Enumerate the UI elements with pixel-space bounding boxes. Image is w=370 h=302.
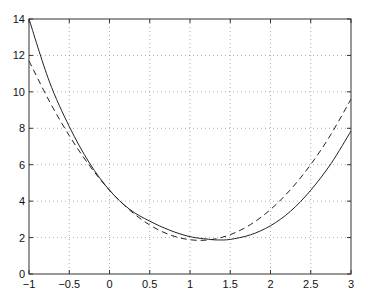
y-tick-label: 0 — [19, 268, 25, 280]
x-tick-label: 1.5 — [223, 278, 238, 290]
y-tick-label: 6 — [19, 159, 25, 171]
axis-ticks: −1−0.500.511.522.5302468101214 — [13, 13, 354, 290]
x-tick-label: 2.5 — [303, 278, 318, 290]
x-tick-label: 0.5 — [142, 278, 157, 290]
y-tick-label: 12 — [13, 49, 25, 61]
x-tick-label: −0.5 — [58, 278, 80, 290]
x-tick-label: 0 — [106, 278, 112, 290]
y-tick-label: 8 — [19, 122, 25, 134]
line-chart: −1−0.500.511.522.5302468101214 — [0, 0, 370, 302]
y-tick-label: 14 — [13, 13, 25, 25]
y-tick-label: 10 — [13, 86, 25, 98]
y-tick-label: 2 — [19, 232, 25, 244]
x-tick-label: 1 — [187, 278, 193, 290]
x-tick-label: 2 — [267, 278, 273, 290]
y-tick-label: 4 — [19, 195, 25, 207]
grid-lines — [29, 19, 351, 274]
x-tick-label: 3 — [348, 278, 354, 290]
solid-curve — [29, 19, 351, 240]
